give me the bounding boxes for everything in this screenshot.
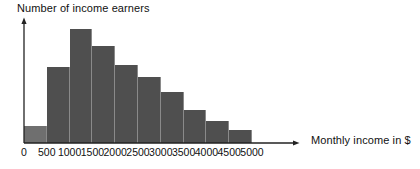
x-tick-label: 500	[38, 146, 56, 158]
bar	[206, 121, 229, 143]
x-axis-title: Monthly income in $	[311, 134, 411, 146]
x-tick-label: 1000	[58, 146, 81, 158]
bar	[184, 110, 207, 143]
y-axis-title: Number of income earners	[17, 2, 150, 14]
x-tick-label: 2500	[126, 146, 149, 158]
bar	[138, 77, 161, 143]
x-tick-label: 3000	[149, 146, 172, 158]
bar	[70, 29, 93, 143]
x-tick-label: 1500	[81, 146, 104, 158]
histogram-chart: Number of income earners Monthly income …	[0, 0, 420, 169]
x-tick-label: 5000	[240, 146, 263, 158]
bar	[115, 65, 138, 143]
x-tick-label: 0	[21, 146, 27, 158]
x-tick-label: 2000	[104, 146, 127, 158]
x-tick-label: 3500	[172, 146, 195, 158]
x-tick-label: 4500	[218, 146, 241, 158]
x-tick-label: 4000	[195, 146, 218, 158]
bar	[229, 130, 252, 143]
bar	[47, 67, 70, 143]
bar	[24, 126, 47, 143]
bar	[161, 92, 184, 143]
bar	[92, 46, 115, 143]
